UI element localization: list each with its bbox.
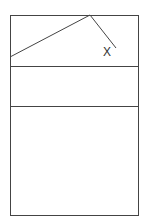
label-x: X — [103, 46, 111, 58]
diagram-canvas: X — [0, 0, 145, 218]
angled-line — [10, 15, 116, 57]
outer-box — [11, 16, 139, 216]
diagram-svg — [0, 0, 145, 218]
